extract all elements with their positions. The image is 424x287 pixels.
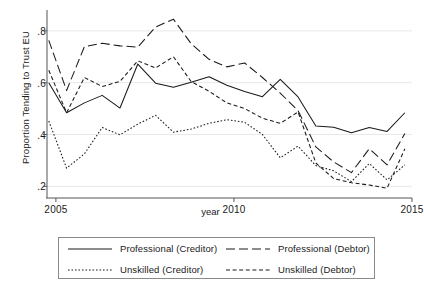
- legend-key-dotted: [67, 264, 113, 276]
- x-axis-title: year: [0, 206, 421, 217]
- legend-item: Unskilled (Creditor): [67, 259, 203, 280]
- chart-legend: Professional (Creditor)Unskilled (Credit…: [58, 237, 375, 279]
- plot-area: Proportion Tending to Trust EU .2.4.6.8 …: [0, 0, 421, 222]
- series-line-3: [49, 57, 405, 188]
- legend-column-right: Professional (Debtor)Unskilled (Debtor): [225, 238, 375, 280]
- legend-key-short-dash: [225, 264, 271, 276]
- series-line-0: [49, 64, 405, 133]
- legend-item: Professional (Debtor): [225, 238, 370, 259]
- legend-label: Unskilled (Creditor): [120, 264, 203, 275]
- legend-label: Professional (Creditor): [120, 243, 217, 254]
- legend-label: Professional (Debtor): [278, 243, 370, 254]
- legend-key-long-dash: [225, 243, 271, 255]
- chart-canvas: [0, 0, 421, 222]
- legend-item: Unskilled (Debtor): [225, 259, 356, 280]
- legend-item: Professional (Creditor): [67, 238, 217, 259]
- legend-column-left: Professional (Creditor)Unskilled (Credit…: [67, 238, 222, 280]
- legend-key-solid: [67, 243, 113, 255]
- legend-label: Unskilled (Debtor): [278, 264, 356, 275]
